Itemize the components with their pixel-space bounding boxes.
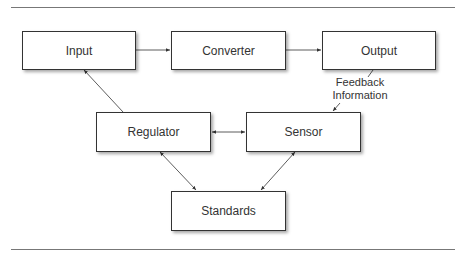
- node-sensor: Sensor: [246, 112, 361, 152]
- feedback-label-line1: Feedback: [325, 76, 395, 89]
- node-regulator: Regulator: [96, 112, 211, 152]
- node-output-label: Output: [361, 44, 397, 58]
- node-regulator-label: Regulator: [127, 125, 179, 139]
- node-output: Output: [322, 31, 436, 70]
- arrow-feedback-sensor: [333, 103, 340, 111]
- arrow-regulator-input: [84, 70, 123, 112]
- node-standards-label: Standards: [201, 204, 256, 218]
- node-converter: Converter: [171, 31, 286, 70]
- arrow-regulator-standards: [160, 152, 196, 190]
- arrow-sensor-standards: [261, 152, 295, 190]
- feedback-information-label: Feedback Information: [325, 76, 395, 102]
- node-converter-label: Converter: [202, 44, 255, 58]
- feedback-label-line2: Information: [325, 89, 395, 102]
- node-standards: Standards: [171, 191, 286, 231]
- node-input: Input: [22, 31, 136, 70]
- node-input-label: Input: [66, 44, 93, 58]
- node-sensor-label: Sensor: [284, 125, 322, 139]
